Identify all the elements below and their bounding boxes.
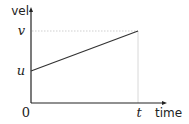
y-axis-label: vel	[11, 4, 29, 18]
u-label: u	[17, 63, 25, 78]
velocity-line	[31, 31, 138, 71]
velocity-time-diagram: vel v u 0 t time	[0, 0, 189, 124]
x-axis-arrow-icon	[162, 101, 167, 105]
x-axis-label: time	[155, 106, 182, 120]
y-axis-arrow-icon	[29, 7, 33, 12]
origin-label: 0	[22, 105, 30, 120]
t-label: t	[136, 105, 142, 120]
v-label: v	[18, 23, 26, 38]
